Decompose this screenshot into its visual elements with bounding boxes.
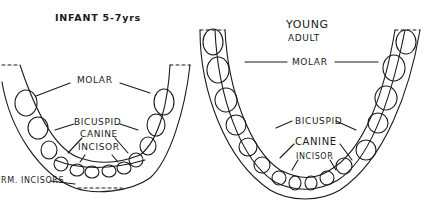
infant-incisor-label: INCISOR bbox=[78, 142, 120, 152]
adult-incisor-label: INCISOR bbox=[296, 152, 333, 161]
adult-title-line1: YOUNG bbox=[286, 18, 329, 31]
infant-canine-label: CANINE bbox=[80, 129, 118, 139]
infant-title: INFANT 5-7yrs bbox=[55, 12, 141, 23]
dental-arches-drawing bbox=[0, 0, 433, 207]
adult-bicuspid-label: BICUSPID bbox=[295, 116, 342, 126]
adult-arch bbox=[200, 29, 420, 199]
adult-molar-label: MOLAR bbox=[292, 57, 327, 67]
adult-title-line2: ADULT bbox=[288, 33, 320, 43]
infant-bicuspid-label: BICUSPID bbox=[74, 117, 121, 127]
infant-molar-label: MOLAR bbox=[77, 75, 112, 85]
infant-perm-incisors-label: PERM. INCISORS bbox=[0, 176, 64, 185]
adult-canine-label: CANINE bbox=[295, 136, 337, 147]
